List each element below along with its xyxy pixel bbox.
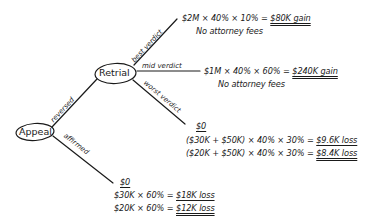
retrial-node-label: Retrial: [99, 68, 130, 78]
mid-outcome-result: $240K gain: [292, 66, 338, 76]
decision-tree-diagram: Appeal Retrial reversed affirmed best ve…: [0, 0, 377, 224]
mid-verdict-branch-label: mid verdict: [142, 63, 182, 70]
worst-outcome-result-2: $8.4K loss: [316, 148, 357, 158]
best-outcome-expression: $2M × 40% × 10% =: [182, 13, 270, 23]
worst-outcome-header: $0: [196, 122, 206, 130]
mid-outcome-expression: $1M × 40% × 60% =: [204, 66, 292, 76]
worst-verdict-branch-line: [133, 80, 185, 124]
affirmed-outcome-expression-2: $20K × 60% =: [114, 203, 176, 213]
best-outcome-result: $80K gain: [270, 13, 310, 23]
worst-outcome-expression-1: ($30K + $50K) × 40% × 30% =: [186, 135, 316, 145]
mid-outcome-note: No attorney fees: [218, 80, 285, 88]
worst-outcome-result-1: $9.6K loss: [316, 135, 357, 145]
appeal-node-label: Appeal: [19, 127, 52, 137]
affirmed-outcome-result-1: $18K loss: [176, 190, 215, 200]
best-outcome-note: No attorney fees: [196, 27, 263, 35]
worst-outcome-expression-2: ($20K + $50K) × 40% × 30% =: [186, 148, 316, 158]
affirmed-outcome-result-2: $12K loss: [176, 203, 215, 213]
affirmed-outcome-header: $0: [120, 178, 130, 186]
affirmed-outcome-expression-1: $30K × 60% =: [114, 190, 176, 200]
affirmed-branch-line: [53, 136, 113, 183]
